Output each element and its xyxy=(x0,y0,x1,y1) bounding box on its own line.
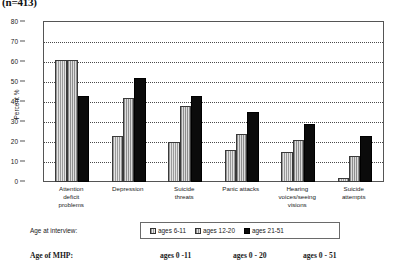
bar xyxy=(349,156,360,182)
y-tick-mark xyxy=(20,41,25,42)
bar-group xyxy=(214,22,271,182)
bar xyxy=(112,136,123,182)
bar xyxy=(338,178,349,182)
bar xyxy=(360,136,371,182)
y-tick-label: 10 xyxy=(11,158,18,165)
bar xyxy=(293,140,304,182)
footnote-value: ages 0 -11 xyxy=(160,251,191,260)
x-axis-category-labels: AttentiondeficitproblemsDepressionSuicid… xyxy=(43,185,384,221)
bar-group xyxy=(270,22,327,182)
footnote-value: ages 0 - 20 xyxy=(233,251,267,260)
bar xyxy=(247,112,258,182)
category-label-line: Suicide xyxy=(156,185,213,193)
legend-item: ages 21-51 xyxy=(244,227,284,234)
y-tick-mark xyxy=(20,141,25,142)
x-axis-category-label: Panic attacks xyxy=(213,185,270,193)
category-label-line: Depression xyxy=(100,185,157,193)
legend-swatch-icon xyxy=(195,228,201,234)
y-tick-label: 20 xyxy=(11,138,18,145)
legend-caption: Age at interview: xyxy=(30,227,77,234)
y-tick-label: 30 xyxy=(11,118,18,125)
bar xyxy=(78,96,89,182)
bar-group xyxy=(101,22,158,182)
category-label-line: deficit xyxy=(43,193,100,201)
bar xyxy=(225,150,236,182)
legend-swatch-icon xyxy=(244,228,250,234)
y-tick-mark xyxy=(20,121,25,122)
bar xyxy=(304,124,315,182)
y-tick-mark xyxy=(20,81,25,82)
category-label-line: voices/seeing xyxy=(269,193,326,201)
legend-item: ages 6-11 xyxy=(150,227,186,234)
bar xyxy=(180,106,191,182)
legend-item: ages 12-20 xyxy=(195,227,235,234)
footnote-caption: Age of MHP: xyxy=(30,251,73,260)
x-axis-category-label: Suicidethreats xyxy=(156,185,213,201)
bar xyxy=(67,60,78,182)
x-axis-category-label: Depression xyxy=(100,185,157,193)
y-tick-mark xyxy=(20,61,25,62)
x-axis-category-label: Attentiondeficitproblems xyxy=(43,185,100,210)
y-axis: Percent % 80706050403020100 xyxy=(0,0,43,203)
category-label-line: Panic attacks xyxy=(213,185,270,193)
bar-group xyxy=(157,22,214,182)
bar xyxy=(134,78,145,182)
legend-item-label: ages 21-51 xyxy=(252,227,284,234)
y-tick-mark xyxy=(20,181,25,182)
bar xyxy=(191,96,202,182)
y-tick-label: 80 xyxy=(11,18,18,25)
category-label-line: Attention xyxy=(43,185,100,193)
y-tick-mark xyxy=(20,21,25,22)
y-tick-label: 0 xyxy=(14,178,18,185)
y-tick-label: 50 xyxy=(11,78,18,85)
legend: ages 6-11ages 12-20ages 21-51 xyxy=(140,222,340,239)
legend-row: Age at interview: ages 6-11ages 12-20age… xyxy=(0,221,395,243)
legend-swatch-icon xyxy=(150,228,156,234)
bar xyxy=(281,152,292,182)
footnote-value: ages 0 - 51 xyxy=(303,251,337,260)
bar xyxy=(236,134,247,182)
category-label-line: Hearing xyxy=(269,185,326,193)
x-axis-category-label: Hearingvoices/seeingvisions xyxy=(269,185,326,210)
bars-layer xyxy=(44,22,383,182)
x-axis-category-label: Suicideattempts xyxy=(326,185,383,201)
y-tick-mark xyxy=(20,161,25,162)
bar xyxy=(123,98,134,182)
legend-item-label: ages 6-11 xyxy=(158,227,186,234)
bar-group xyxy=(44,22,101,182)
category-label-line: visions xyxy=(269,201,326,209)
footnote-row: Age of MHP: ages 0 -11ages 0 - 20ages 0 … xyxy=(0,248,395,268)
y-tick-mark xyxy=(20,101,25,102)
category-label-line: attempts xyxy=(326,193,383,201)
y-tick-label: 60 xyxy=(11,58,18,65)
category-label-line: threats xyxy=(156,193,213,201)
bar-chart-figure: (n=413) Percent % 80706050403020100 Atte… xyxy=(0,0,395,271)
bar-group xyxy=(327,22,384,182)
y-tick-label: 70 xyxy=(11,38,18,45)
y-tick-label: 40 xyxy=(11,98,18,105)
legend-item-label: ages 12-20 xyxy=(203,227,235,234)
bar xyxy=(55,60,66,182)
category-label-line: problems xyxy=(43,201,100,209)
category-label-line: Suicide xyxy=(326,185,383,193)
bar xyxy=(168,142,179,182)
